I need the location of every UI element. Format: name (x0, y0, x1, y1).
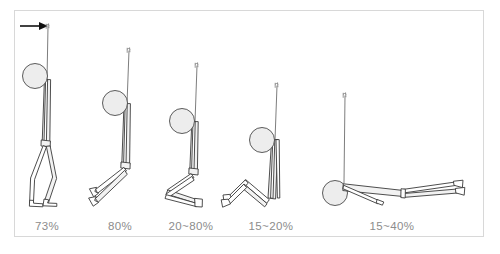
suspension-trauma-figure: 73% 80% 20~80% 15~20% 15~40% (0, 0, 500, 254)
pose-4-head (250, 128, 275, 153)
pose-3-label: 20~80% (169, 219, 214, 233)
pose-4-foot-far (221, 199, 230, 207)
pose-3-head (170, 109, 195, 134)
pose-1-label: 73% (35, 219, 59, 233)
pose-5-hand (377, 200, 384, 206)
pose-3-rope (195, 66, 197, 122)
pose-3-foot (195, 198, 202, 207)
pose-1-foot-back (29, 201, 43, 207)
pose-2-head (103, 91, 128, 116)
pose-5-foot-lower (456, 187, 465, 195)
pose-1-leg-back (30, 146, 47, 204)
pose-4-rope (275, 86, 277, 140)
pose-5-foot-upper (454, 180, 463, 187)
figure-illustration (0, 0, 500, 254)
pose-5-knee (401, 189, 405, 198)
pose-1-head (23, 64, 48, 89)
pose-3-kneeling-figure (165, 63, 202, 207)
pose-1-standing-figure (23, 24, 57, 207)
support-point-arrow (20, 22, 48, 30)
pose-4-label: 15~20% (249, 219, 294, 233)
pose-4-arm-back (276, 140, 280, 198)
pose-4-sitting-figure (221, 83, 280, 207)
pose-2-label: 80% (108, 219, 132, 233)
pose-5-lying-figure (323, 93, 465, 206)
pose-2-rope (127, 51, 129, 104)
pose-5-rope (344, 96, 345, 183)
pose-1-foot-front (43, 199, 57, 206)
pose-2-leaning-figure (89, 48, 131, 206)
pose-5-label: 15~40% (370, 219, 415, 233)
pose-1-leg-front (44, 146, 56, 202)
